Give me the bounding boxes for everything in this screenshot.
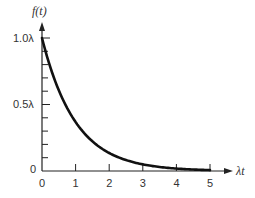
x-tick-label: 4 [173, 178, 179, 189]
chart-canvas [0, 0, 255, 198]
x-tick-label: 3 [140, 178, 146, 189]
x-tick-label: 5 [207, 178, 213, 189]
axes [39, 22, 233, 174]
x-axis-label: λt [236, 165, 245, 177]
x-tick-label: 2 [106, 178, 112, 189]
y-tick-label-half: 0.5λ [13, 99, 34, 110]
y-axis-label: f(t) [32, 5, 47, 17]
y-tick-label-1: 1.0λ [13, 33, 34, 44]
y-tick-label-0: 0 [30, 164, 36, 175]
y-axis-arrow-icon [39, 22, 45, 31]
x-tick-label: 1 [73, 178, 79, 189]
x-axis-arrow-icon [224, 168, 233, 174]
exponential-curve [42, 38, 210, 170]
x-tick-label: 0 [39, 178, 45, 189]
